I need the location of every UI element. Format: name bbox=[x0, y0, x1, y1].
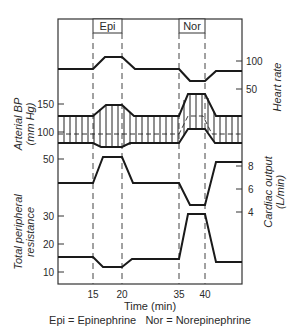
bp-ticks bbox=[58, 104, 64, 159]
tpr-trace bbox=[58, 214, 242, 267]
tpr-tick-20: 20 bbox=[43, 239, 55, 250]
hr-axis-title: Heart rate bbox=[271, 63, 283, 112]
bp-tick-150: 150 bbox=[37, 99, 54, 110]
hr-tick-100: 100 bbox=[246, 56, 263, 67]
x-axis-title: Time (min) bbox=[124, 300, 176, 312]
legend-caption: Epi = Epinephrine Nor = Norepinephrine bbox=[49, 314, 251, 326]
co-tick-8: 8 bbox=[248, 161, 254, 172]
heart-rate-trace bbox=[58, 57, 242, 81]
hr-tick-50: 50 bbox=[246, 84, 258, 95]
cardiac-output-trace bbox=[58, 157, 242, 205]
tpr-tick-10: 10 bbox=[43, 267, 55, 278]
x-tick-20: 20 bbox=[116, 289, 128, 300]
epi-box-label: Epi bbox=[100, 20, 116, 32]
bp-axis-unit: (mm Hg) bbox=[24, 102, 36, 145]
nor-box-label: Nor bbox=[183, 20, 201, 32]
tpr-axis-title: Total peripheral bbox=[12, 194, 24, 270]
co-tick-4: 4 bbox=[248, 207, 254, 218]
x-tick-40: 40 bbox=[199, 289, 211, 300]
systolic-bp-trace bbox=[58, 94, 242, 116]
time-markers bbox=[93, 33, 205, 284]
bp-tick-100: 100 bbox=[37, 127, 54, 138]
nor-box: Nor bbox=[179, 19, 205, 33]
x-tick-35: 35 bbox=[173, 289, 185, 300]
tpr-axis-title-2: resistance bbox=[24, 207, 36, 257]
hr-ticks bbox=[236, 61, 242, 89]
plot-frame bbox=[58, 19, 242, 284]
bp-axis-title: Arterial BP bbox=[12, 97, 24, 151]
hemodynamics-diagram: Epi Nor 100 50 Heart rate bbox=[0, 0, 297, 329]
co-ticks bbox=[236, 166, 242, 212]
co-axis-unit: (L/min) bbox=[274, 175, 286, 210]
x-tick-15: 15 bbox=[87, 289, 99, 300]
co-axis-title: Cardiac output bbox=[262, 155, 274, 227]
epi-box: Epi bbox=[93, 19, 122, 33]
tpr-ticks bbox=[58, 216, 64, 272]
bp-tick-50: 50 bbox=[43, 154, 55, 165]
co-tick-6: 6 bbox=[248, 184, 254, 195]
tpr-tick-30: 30 bbox=[43, 211, 55, 222]
